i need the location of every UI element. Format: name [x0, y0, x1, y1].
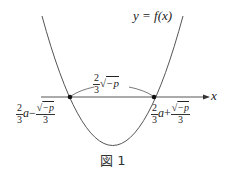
- distance-label: 23√−p: [93, 73, 119, 95]
- right-leader-line: [129, 87, 153, 96]
- right-root-label: 23a+√−p3: [151, 103, 190, 125]
- x-axis-label: x: [211, 89, 217, 102]
- left-leader-line: [71, 87, 94, 96]
- left-root-label: 23a−√−p3: [16, 103, 55, 125]
- curve-label: y = f(x): [133, 9, 172, 22]
- x-axis-arrow-icon: [203, 95, 210, 100]
- figure-caption: 図 1: [100, 150, 125, 169]
